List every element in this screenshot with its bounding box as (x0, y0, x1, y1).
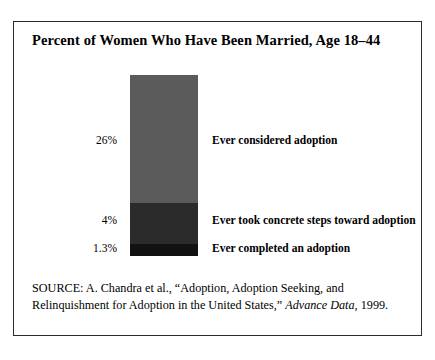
figure-frame: Percent of Women Who Have Been Married, … (13, 21, 422, 336)
page-title: Percent of Women Who Have Been Married, … (32, 32, 380, 49)
value-label-considered: 26% (96, 134, 117, 146)
stacked-bar-chart (130, 75, 198, 256)
chart-plot-area: 26% 4% 1.3% Ever considered adoption Eve… (14, 62, 421, 267)
category-label-considered: Ever considered adoption (212, 134, 337, 146)
category-label-completed: Ever completed an adoption (212, 242, 350, 254)
source-suffix: , 1999. (355, 298, 389, 312)
source-note: SOURCE: A. Chandra et al., “Adoption, Ad… (32, 280, 407, 315)
category-label-concrete-steps: Ever took concrete steps toward adoption (212, 214, 416, 226)
bar-segment-considered (130, 75, 198, 203)
value-label-completed: 1.3% (93, 242, 117, 254)
value-label-concrete-steps: 4% (102, 214, 117, 226)
source-publication: Advance Data (285, 298, 354, 312)
bar-segment-concrete-steps (130, 203, 198, 244)
bar-segment-completed (130, 244, 198, 256)
